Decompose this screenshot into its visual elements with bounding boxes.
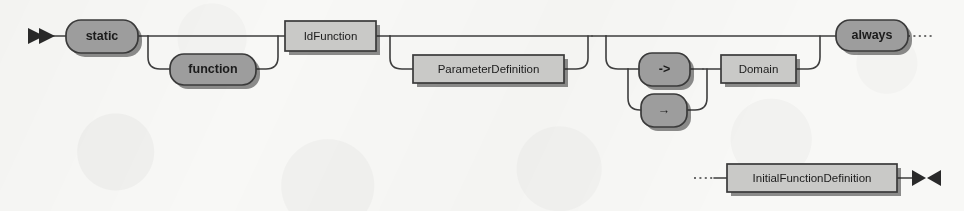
node-initialfunctiondefinition[interactable]: InitialFunctionDefinition	[727, 164, 901, 196]
node-always[interactable]: always	[836, 20, 912, 55]
node-parameterdefinition-label: ParameterDefinition	[438, 63, 540, 75]
node-arrow-ascii-label: ->	[659, 62, 670, 76]
node-static-label: static	[86, 29, 119, 43]
node-static[interactable]: static	[66, 20, 142, 57]
node-idfunction[interactable]: IdFunction	[285, 21, 380, 55]
node-parameterdefinition[interactable]: ParameterDefinition	[413, 55, 568, 87]
node-domain[interactable]: Domain	[721, 55, 800, 87]
node-arrow-unicode-label: →	[658, 103, 671, 117]
node-arrow-ascii[interactable]: ->	[639, 53, 694, 90]
node-idfunction-label: IdFunction	[304, 30, 358, 42]
railroad-diagram-svg: static function IdFunction ParameterDefi…	[0, 0, 964, 211]
rail-branch-down-to-function	[148, 36, 170, 69]
end-marker	[912, 170, 941, 186]
node-initialfunctiondefinition-label: InitialFunctionDefinition	[753, 172, 872, 184]
node-function-label: function	[188, 62, 237, 76]
node-function[interactable]: function	[170, 54, 260, 89]
node-domain-label: Domain	[739, 63, 779, 75]
rail-branch-down-to-parameterdefinition	[390, 36, 413, 69]
rail-branch-up-from-function	[256, 36, 278, 69]
start-marker	[28, 28, 55, 44]
node-arrow-unicode[interactable]: →	[641, 94, 691, 131]
node-always-label: always	[851, 28, 892, 42]
rail-branch-down-to-arrow-group	[606, 36, 628, 69]
railroad-diagram-canvas: static function IdFunction ParameterDefi…	[0, 0, 964, 211]
